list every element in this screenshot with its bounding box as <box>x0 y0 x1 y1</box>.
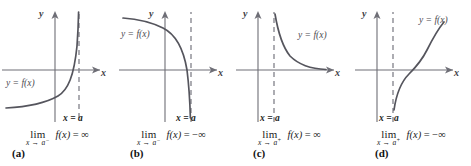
panel-tag-a: (a) <box>12 148 25 159</box>
limit-expression: lim x → a− f(x) = −∞ <box>137 126 206 144</box>
curve-label: y = f(x) <box>121 30 150 40</box>
panel-b: y x y = f(x) x = a lim x → a− f(x) = −∞ … <box>117 0 235 166</box>
x-axis-label: x <box>454 68 459 78</box>
limit-operator: lim x → a− <box>137 129 161 147</box>
asymptote-label: x = a <box>176 114 196 124</box>
panel-tag-d: (d) <box>375 148 388 159</box>
limit-subscript: x → a− <box>137 139 161 147</box>
panel-d-plot <box>351 0 471 128</box>
limit-body: f(x) = ∞ <box>288 130 321 141</box>
asymptote-label: x = a <box>379 114 399 124</box>
limit-operator: lim x → a− <box>26 129 50 147</box>
limit-expression: lim x → a− f(x) = ∞ <box>26 126 89 144</box>
panel-b-plot <box>117 0 235 128</box>
asymptote-label: x = a <box>260 114 280 124</box>
panel-a-graph <box>0 0 118 128</box>
panel-b-graph <box>117 0 235 128</box>
x-axis-label: x <box>101 68 106 78</box>
limit-operator: lim x → a+ <box>377 129 401 147</box>
panel-tag-c: (c) <box>253 148 265 159</box>
curve-label: y = f(x) <box>6 79 35 89</box>
panel-d-graph <box>351 0 471 128</box>
limit-subscript: x → a+ <box>258 139 282 147</box>
panel-c-plot <box>234 0 352 128</box>
limit-body: f(x) = ∞ <box>56 130 89 141</box>
panel-c: y x y = f(x) x = a lim x → a+ f(x) = ∞ (… <box>234 0 352 166</box>
y-axis-label: y <box>243 9 247 19</box>
panel-a-plot <box>0 0 118 128</box>
x-axis-label: x <box>335 68 340 78</box>
y-axis-label: y <box>149 9 153 19</box>
y-axis-label: y <box>39 9 43 19</box>
panel-tag-b: (b) <box>130 148 143 159</box>
y-axis-label: y <box>362 9 366 19</box>
curve <box>275 14 326 70</box>
curve-label: y = f(x) <box>419 16 448 26</box>
limit-body: f(x) = −∞ <box>407 130 446 141</box>
panel-d: y x y = f(x) x = a lim x → a+ f(x) = −∞ … <box>351 0 471 166</box>
limit-subscript: x → a− <box>26 139 50 147</box>
limit-subscript: x → a+ <box>377 139 401 147</box>
curve-label: y = f(x) <box>298 31 327 41</box>
limit-operator: lim x → a+ <box>258 129 282 147</box>
infinite-limits-figure: y x y = f(x) x = a lim x → a− f(x) = ∞ (… <box>0 0 471 166</box>
asymptote-label: x = a <box>63 114 83 124</box>
panel-a: y x y = f(x) x = a lim x → a− f(x) = ∞ (… <box>0 0 118 166</box>
limit-expression: lim x → a+ f(x) = −∞ <box>377 126 446 144</box>
limit-body: f(x) = −∞ <box>167 130 206 141</box>
limit-expression: lim x → a+ f(x) = ∞ <box>258 126 321 144</box>
panel-c-graph <box>234 0 352 128</box>
curve <box>394 22 444 110</box>
x-axis-label: x <box>218 68 223 78</box>
curve <box>6 12 79 108</box>
